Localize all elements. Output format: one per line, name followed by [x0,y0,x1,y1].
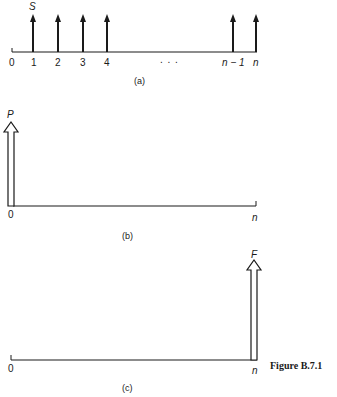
start-label-0-c: 0 [8,364,14,374]
tick-label-n-minus-1: n − 1 [222,58,245,68]
panel-c-future-value-arrow [247,260,261,360]
panel-b-present-value-arrow [4,122,18,206]
annuity-label-s: S [29,2,36,12]
tick-label-3: 3 [80,58,86,68]
tick-label-1: 1 [31,58,37,68]
panel-a-payment-arrows [30,14,259,52]
start-label-0: 0 [8,210,14,220]
present-value-label-p: P [7,110,14,120]
ellipsis: . . . [160,55,179,65]
tick-label-2: 2 [55,58,61,68]
future-value-label-f: F [251,250,257,260]
caption-a: (a) [134,76,145,86]
tick-label-n: n [253,58,259,68]
panel-b-timeline [13,201,256,206]
panel-a-timeline [12,48,257,52]
tick-label-0: 0 [9,58,15,68]
caption-b: (b) [122,231,133,241]
tick-label-4: 4 [104,58,110,68]
end-label-n: n [252,213,258,223]
end-label-n-c: n [252,366,258,376]
caption-c: (c) [122,383,133,393]
panel-c-timeline [11,355,257,360]
figure-label: Figure B.7.1 [270,360,322,371]
